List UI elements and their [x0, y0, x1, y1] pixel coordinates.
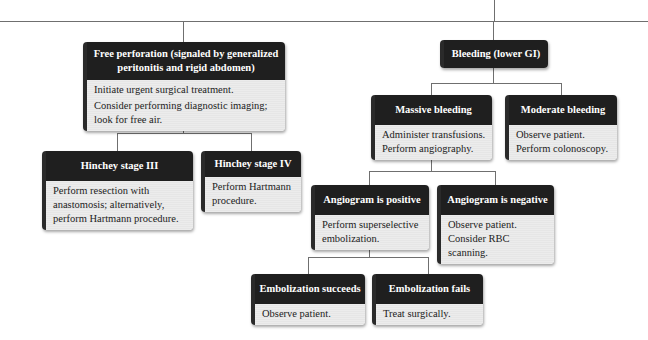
- connector-to-hinchey-iv: [251, 133, 252, 151]
- node-body: Perform superselective embolization.: [315, 215, 429, 250]
- node-embolization-succeeds: Embolization succeeds Observe patient.: [251, 274, 365, 325]
- connector-top-right-stub: [494, 0, 495, 21]
- connector-bleeding-horizontal: [431, 83, 562, 84]
- node-massive-bleeding: Massive bleeding Administer transfusions…: [371, 95, 492, 160]
- connector-to-angiogram-positive: [369, 171, 370, 185]
- node-text: Perform angiography.: [382, 142, 486, 156]
- node-body: Perform resection with anastomosis; alte…: [46, 181, 193, 230]
- connector-bleeding-down: [493, 68, 494, 83]
- node-text: Perform colonoscopy.: [516, 142, 611, 156]
- node-body: Initiate urgent surgical treatment. Cons…: [87, 80, 285, 131]
- node-text: Perform superselective embolization.: [322, 218, 423, 246]
- node-body: Administer transfusions. Perform angiogr…: [375, 125, 492, 160]
- connector-angiogram-horizontal: [369, 171, 496, 172]
- node-text: Treat surgically.: [383, 307, 477, 321]
- connector-top-right-extension: [494, 21, 648, 22]
- node-body: Observe patient. Consider RBC scanning.: [441, 215, 554, 264]
- node-body: Observe patient.: [255, 304, 365, 325]
- node-text: Initiate urgent surgical treatment.: [94, 83, 279, 97]
- connector-to-moderate: [561, 83, 562, 95]
- node-title: Embolization fails: [376, 274, 483, 304]
- connector-to-embolization-succeeds: [308, 257, 309, 274]
- node-free-perforation: Free perforation (signaled by generalize…: [83, 42, 285, 131]
- node-title: Moderate bleeding: [509, 95, 617, 125]
- connector-top-horizontal: [0, 21, 494, 22]
- node-title: Embolization succeeds: [255, 274, 365, 304]
- node-angiogram-negative: Angiogram is negative Observe patient. C…: [437, 185, 554, 264]
- connector-hinchey-horizontal: [117, 133, 252, 134]
- connector-to-hinchey-iii: [117, 133, 118, 151]
- node-text: Observe patient.: [516, 128, 611, 142]
- node-embolization-fails: Embolization fails Treat surgically.: [372, 274, 483, 325]
- node-body: Perform Hartmann procedure.: [205, 177, 301, 212]
- node-moderate-bleeding: Moderate bleeding Observe patient. Perfo…: [505, 95, 617, 160]
- node-title: Bleeding (lower GI): [444, 40, 548, 68]
- node-text: Observe patient.: [448, 218, 548, 232]
- connector-to-massive: [431, 83, 432, 95]
- node-text: Consider RBC scanning.: [448, 232, 548, 260]
- node-hinchey-iii: Hinchey stage III Perform resection with…: [42, 151, 193, 230]
- node-text: Consider performing diagnostic imaging; …: [94, 99, 279, 127]
- node-title: Hinchey stage III: [46, 151, 193, 181]
- connector-to-embolization-fails: [428, 257, 429, 274]
- node-title: Angiogram is positive: [315, 185, 429, 215]
- node-text: Administer transfusions.: [382, 128, 486, 142]
- connector-embolization-horizontal: [308, 257, 429, 258]
- node-title: Hinchey stage IV: [205, 151, 301, 177]
- connector-to-angiogram-negative: [495, 171, 496, 185]
- node-text: Perform resection with anastomosis; alte…: [53, 184, 187, 226]
- node-title: Angiogram is negative: [441, 185, 554, 215]
- node-text: Observe patient.: [262, 307, 359, 321]
- connector-to-free-perforation: [183, 21, 184, 42]
- node-title: Massive bleeding: [375, 95, 492, 125]
- node-bleeding: Bleeding (lower GI): [440, 40, 548, 68]
- node-angiogram-positive: Angiogram is positive Perform superselec…: [311, 185, 429, 250]
- node-body: Treat surgically.: [376, 304, 483, 325]
- node-title: Free perforation (signaled by generalize…: [87, 42, 285, 80]
- connector-to-bleeding: [493, 21, 494, 40]
- node-hinchey-iv: Hinchey stage IV Perform Hartmann proced…: [201, 151, 301, 212]
- node-text: Perform Hartmann procedure.: [212, 180, 295, 208]
- node-body: Observe patient. Perform colonoscopy.: [509, 125, 617, 160]
